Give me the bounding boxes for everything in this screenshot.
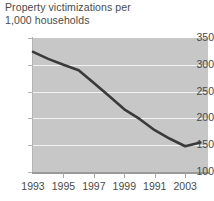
data-series-layer <box>0 0 214 201</box>
property-victimization-line-chart: Property victimizations per 1,000 househ… <box>0 0 214 201</box>
series-line-property-victimizations <box>33 52 200 146</box>
